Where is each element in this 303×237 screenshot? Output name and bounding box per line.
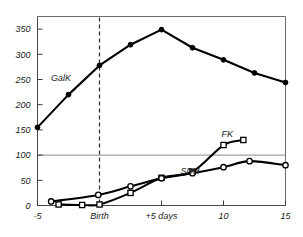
data-point-marker (56, 202, 61, 207)
data-point-marker (128, 184, 133, 189)
y-tick-label: 150 (15, 125, 30, 135)
data-point-marker (252, 71, 257, 76)
series-label-galk: GalK (51, 73, 72, 83)
y-tick-label: 350 (15, 24, 30, 34)
data-point-marker (283, 162, 288, 167)
data-point-marker (128, 190, 133, 195)
data-point-marker (221, 165, 226, 170)
data-point-marker (35, 125, 40, 130)
x-tick-label: 10 (218, 211, 228, 221)
data-point-marker (97, 202, 102, 207)
data-point-marker (283, 80, 288, 85)
y-tick-label: 200 (14, 100, 30, 110)
data-point-marker (80, 202, 85, 207)
data-point-marker (159, 176, 164, 181)
chart-container: -5Birth+5 days1015 050100150200250300350… (0, 0, 303, 237)
y-tick-label: 100 (15, 150, 30, 160)
data-point-marker (159, 27, 164, 32)
data-point-marker (241, 137, 246, 142)
x-tick-label: 15 (280, 211, 291, 221)
data-point-marker (221, 57, 226, 62)
line-chart: -5Birth+5 days1015 050100150200250300350… (0, 0, 303, 237)
series-label-fk: FK (221, 129, 233, 139)
y-tick-label: 300 (15, 50, 30, 60)
data-point-marker (97, 63, 102, 68)
data-point-marker (48, 199, 53, 204)
data-point-marker (190, 45, 195, 50)
data-point-marker (66, 92, 71, 97)
x-tick-label: Birth (90, 211, 109, 221)
y-tick-label: 0 (25, 201, 30, 211)
data-point-marker (128, 42, 133, 47)
series-label-sdh: SDH (181, 166, 201, 176)
y-tick-label: 250 (14, 75, 30, 85)
x-tick-label: -5 (33, 211, 42, 221)
y-tick-label: 50 (20, 176, 30, 186)
data-point-marker (96, 192, 101, 197)
data-point-marker (221, 142, 226, 147)
x-tick-label: +5 days (146, 211, 178, 221)
data-point-marker (247, 158, 252, 163)
